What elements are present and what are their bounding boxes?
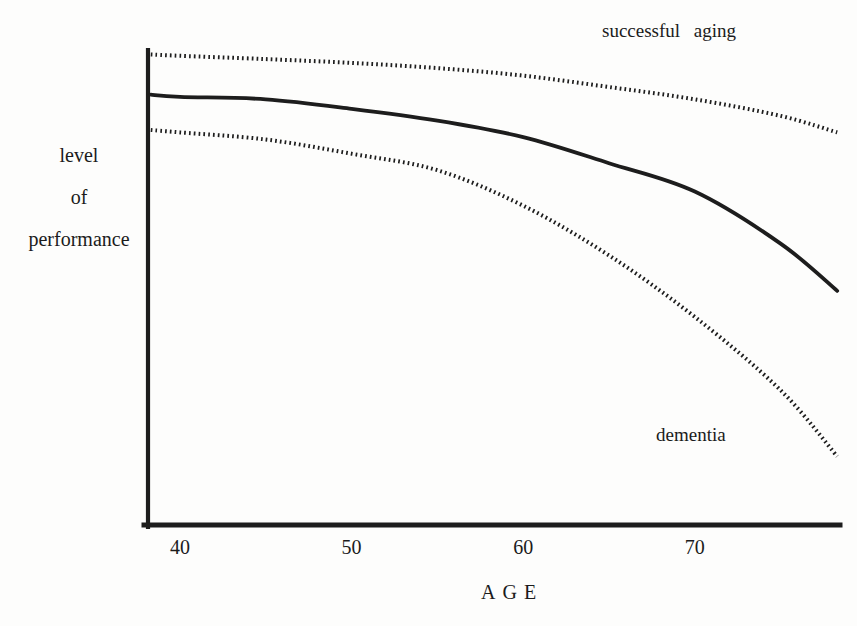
x-tick-40: 40: [170, 536, 190, 559]
x-axis-label: AGE: [481, 581, 543, 604]
x-tick-70: 70: [685, 536, 705, 559]
x-tick-60: 60: [513, 536, 533, 559]
x-tick-50: 50: [342, 536, 362, 559]
aging-performance-figure: successful aging level of performance de…: [0, 0, 857, 626]
x-axis-ticks: 40 50 60 70: [0, 0, 857, 626]
